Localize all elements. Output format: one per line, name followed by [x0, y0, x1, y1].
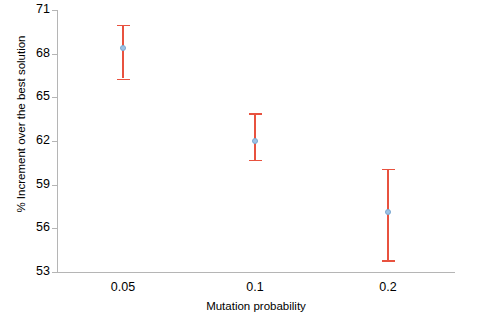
y-tick-mark-65 — [52, 97, 57, 98]
y-tick-label-53: 53 — [2, 265, 50, 277]
errorbar-cap-lower-1 — [249, 160, 262, 161]
x-tick-label-1: 0.1 — [215, 280, 295, 294]
errorbar-cap-lower-2 — [382, 260, 395, 261]
y-tick-mark-68 — [52, 54, 57, 55]
data-point-marker-1 — [252, 138, 258, 144]
errorbar-point-1 — [235, 0, 275, 272]
errorbar-point-0 — [103, 0, 143, 272]
x-axis-line — [57, 272, 455, 273]
data-point-marker-2 — [385, 209, 391, 215]
y-tick-mark-71 — [52, 10, 57, 11]
x-tick-label-2: 0.2 — [348, 280, 428, 294]
chart-container: 53 56 59 62 65 68 71 0.05 0.1 0.2 % Incr… — [0, 0, 483, 327]
x-tick-label-0: 0.05 — [83, 280, 163, 294]
y-tick-mark-56 — [52, 228, 57, 229]
data-point-marker-0 — [120, 45, 126, 51]
errorbar-cap-upper-2 — [382, 169, 395, 170]
errorbar-line-0 — [122, 25, 123, 79]
y-tick-mark-59 — [52, 185, 57, 186]
y-axis-title: % Increment over the best solution — [15, 0, 27, 249]
errorbar-point-2 — [368, 0, 408, 272]
y-tick-mark-62 — [52, 141, 57, 142]
y-tick-mark-53 — [52, 272, 57, 273]
errorbar-cap-upper-0 — [117, 25, 130, 26]
errorbar-line-1 — [254, 113, 255, 160]
x-axis-title: Mutation probability — [57, 300, 455, 312]
errorbar-cap-upper-1 — [249, 113, 262, 114]
y-axis-line — [57, 10, 58, 272]
errorbar-cap-lower-0 — [117, 79, 130, 80]
